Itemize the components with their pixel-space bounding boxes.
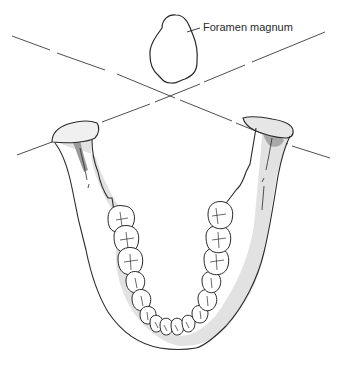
mandible [52,117,294,350]
right-ramus-inner-edge [224,128,256,206]
right-condyle [243,117,293,138]
foramen-magnum-label: Foramen magnum [203,21,293,33]
left-ramus-detail [80,148,89,188]
foramen-magnum-outline [150,15,197,83]
left-condyle [52,121,99,143]
foramen-magnum-leader [187,28,200,32]
teeth [108,202,233,336]
mandible-diagram [0,0,345,377]
